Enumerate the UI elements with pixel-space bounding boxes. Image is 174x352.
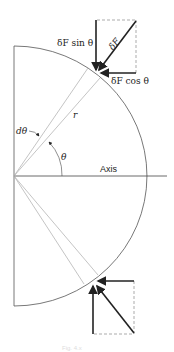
theta-label: θ [61,152,67,162]
radius-line-upper-1 [14,68,88,176]
lower-force-diagram [93,281,134,334]
force-sin-label: δF sin θ [57,38,93,48]
radius-label: r [73,110,78,120]
diagram-canvas: Axis r dθ θ δF sin θ δF δF cos θ Fig. 4.… [0,0,174,352]
radius-line-lower-1 [14,176,84,284]
force-label: δF [107,36,123,52]
radius-line-lower-2 [14,176,98,275]
axis-label: Axis [100,164,118,174]
d-theta-pointer [29,131,39,136]
lower-diagonal-vector [97,286,134,333]
force-cos-label: δF cos θ [111,76,149,86]
d-theta-label: dθ [16,126,28,136]
figure-caption: Fig. 4.x [62,345,82,351]
